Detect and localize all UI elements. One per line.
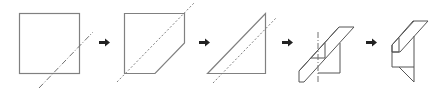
step-5-final-shape <box>392 21 428 82</box>
right-arrow-icon <box>99 39 110 47</box>
fold-line-dashdot <box>39 32 93 88</box>
folding-diagram <box>0 0 437 97</box>
strip-parallelogram <box>299 27 354 82</box>
diagram-canvas <box>0 0 437 97</box>
final-diagonal <box>399 67 414 82</box>
right-arrow-icon <box>199 39 210 47</box>
square-outline <box>20 14 80 74</box>
step-3-triangle <box>208 14 278 84</box>
step-4-folded-strip <box>299 27 354 84</box>
strip-edge <box>299 27 339 71</box>
right-arrow-icon <box>366 39 377 47</box>
triangle-outline <box>208 14 266 74</box>
final-strip-edge <box>392 21 414 45</box>
step-2-pentagon <box>117 2 195 82</box>
step-1-square <box>20 14 94 89</box>
right-arrow-icon <box>282 39 293 47</box>
